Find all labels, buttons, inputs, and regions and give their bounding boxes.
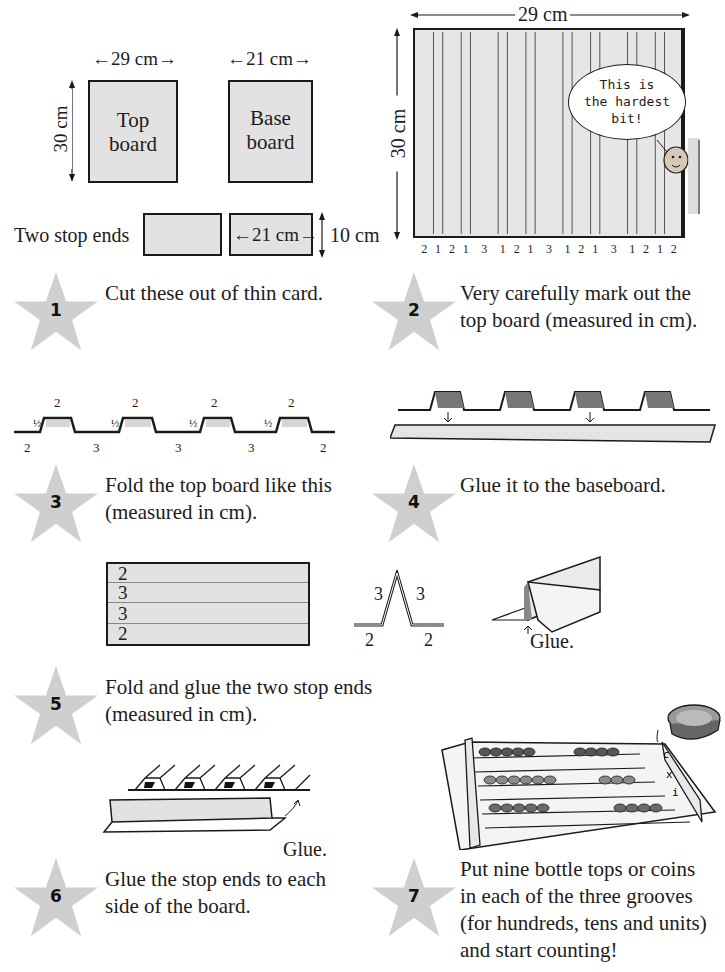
coin [537, 804, 549, 812]
stop-end-profile [352, 570, 452, 630]
step-7-line-1: Put nine bottle tops or coins [460, 856, 707, 883]
strip-row: 2 [108, 564, 308, 583]
step-5-line-2: (measured in cm). [105, 701, 372, 728]
coin [574, 748, 586, 756]
coin [501, 804, 513, 812]
step-5-text: Fold and glue the two stop ends(measured… [105, 674, 372, 728]
segment-label: 3 [481, 242, 487, 257]
half-label: ½ [33, 417, 41, 429]
strip-row: 2 [108, 624, 308, 644]
segment-label: 1 [564, 242, 570, 257]
step-7-star: 7 [372, 858, 456, 938]
step-2-star: 2 [372, 272, 456, 352]
cartoon-character-icon [655, 138, 715, 216]
stop-end-height-text: 10 cm [330, 224, 379, 247]
glue-label: Glue. [530, 630, 574, 653]
coin [525, 804, 537, 812]
stop-end-card-2: ←21 cm→ [229, 213, 313, 256]
step-1-text: Cut these out of thin card. [105, 280, 323, 307]
top-board-card: Top board [88, 80, 178, 183]
step-7-text: Put nine bottle tops or coins in each of… [460, 856, 707, 964]
glue-label: Glue. [283, 838, 327, 861]
step-7-line-3: (for hundreds, tens and units) [460, 910, 707, 937]
bottom-label: 2 [24, 440, 31, 456]
speech-bubble: This is the hardest bit! [568, 64, 686, 140]
base-board-width-text: 21 cm [246, 48, 293, 69]
coin [496, 776, 508, 784]
speech-line-2: the hardest [569, 93, 685, 110]
step-3-number: 3 [14, 492, 98, 512]
top-board-height-text: 30 cm [50, 89, 72, 169]
base-board-label-2: board [230, 130, 311, 154]
top-board-label-2: board [90, 132, 176, 156]
step-6-number: 6 [14, 886, 98, 906]
profile-label: 2 [365, 630, 374, 651]
step-4-number: 4 [372, 492, 456, 512]
bottom-label: 3 [248, 440, 255, 456]
coin [623, 776, 635, 784]
step-2-text: Very carefully mark out thetop board (me… [460, 280, 697, 334]
coin [508, 776, 520, 784]
bottom-label: 3 [93, 440, 100, 456]
stop-ends-label: Two stop ends [14, 224, 129, 247]
coin [614, 804, 626, 812]
coin [484, 776, 496, 784]
coin [523, 748, 535, 756]
step-7-line-2: in each of the three grooves [460, 883, 707, 910]
step-3-star: 3 [14, 464, 98, 544]
marked-board-height-text: 30 cm [387, 96, 410, 172]
step-5-star: 5 [14, 666, 98, 746]
coin [585, 748, 597, 756]
profile-label: 2 [424, 630, 433, 651]
step-3-line-1: Fold the top board like this [105, 472, 332, 499]
bottom-label: 2 [320, 440, 327, 456]
strip-row: 3 [108, 603, 308, 624]
half-label: ½ [111, 417, 119, 429]
step-4-line-1: Glue it to the baseboard. [460, 472, 666, 499]
coin [611, 776, 623, 784]
step-7-number: 7 [372, 886, 456, 906]
folded-stop-end-illustration [490, 552, 605, 634]
coin [650, 804, 662, 812]
coin [489, 804, 501, 812]
step-5-number: 5 [14, 694, 98, 714]
half-label: ½ [189, 417, 197, 429]
coin [544, 776, 556, 784]
coin [607, 748, 619, 756]
step-3-line-2: (measured in cm). [105, 499, 332, 526]
top-board-width-text: 29 cm [111, 48, 158, 69]
top-label: 2 [288, 395, 295, 411]
top-board-label-1: Top [90, 108, 176, 132]
segment-label: 1 [592, 242, 598, 257]
coin [532, 776, 544, 784]
segment-label: 3 [611, 242, 617, 257]
segment-label: 1 [500, 242, 506, 257]
profile-label: 3 [374, 584, 383, 605]
step-7-line-4: and start counting! [460, 937, 707, 964]
coin [490, 748, 502, 756]
coin [479, 748, 491, 756]
segment-label: 2 [514, 242, 520, 257]
attach-stop-ends-illustration [100, 760, 320, 835]
coin [596, 748, 608, 756]
marked-board-width-text: 29 cm [515, 3, 570, 26]
stop-end-height-arrow-icon [317, 212, 327, 258]
base-board-card: Base board [228, 80, 313, 183]
base-board-label-1: Base [230, 106, 311, 130]
segment-label: 3 [546, 242, 552, 257]
hundreds-label: c [663, 749, 669, 760]
step-5-line-1: Fold and glue the two stop ends [105, 674, 372, 701]
half-label: ½ [264, 417, 272, 429]
strip-row: 3 [108, 583, 308, 603]
speech-line-1: This is [569, 76, 685, 93]
baseboard-illustration [390, 380, 720, 450]
stop-end-width-text: 21 cm [252, 224, 299, 245]
segment-label: 1 [463, 242, 469, 257]
segment-label: 2 [671, 242, 677, 257]
step-1-line-1: Cut these out of thin card. [105, 280, 323, 307]
units-label: i [672, 786, 679, 799]
step-6-text: Glue the stop ends to eachside of the bo… [105, 866, 326, 920]
step-2-number: 2 [372, 300, 456, 320]
step-4-text: Glue it to the baseboard. [460, 472, 666, 499]
step-4-star: 4 [372, 464, 456, 544]
